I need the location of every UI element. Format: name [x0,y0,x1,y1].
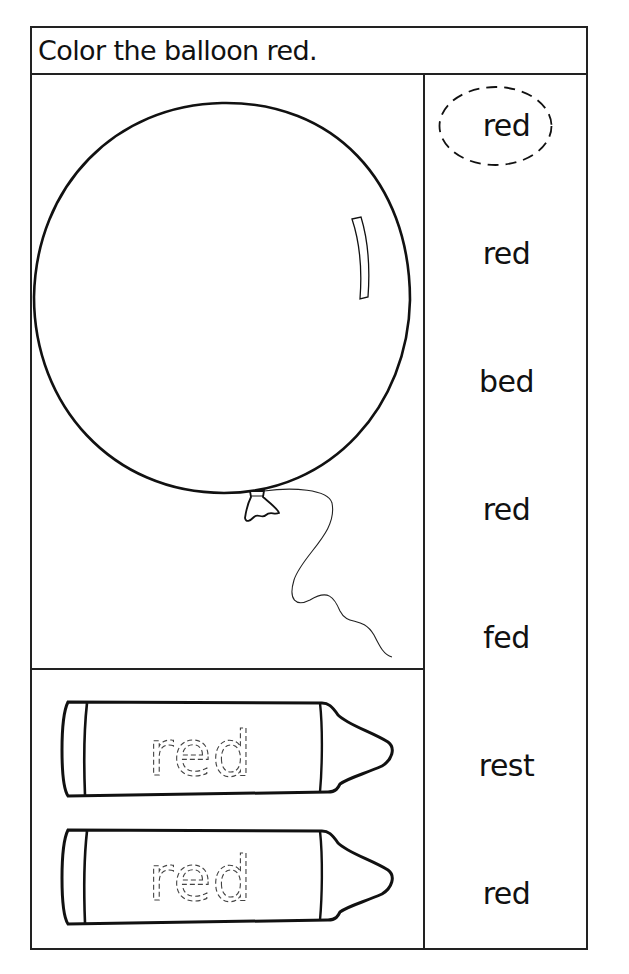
worksheet: Color the balloon red. red [30,26,588,950]
traced-word[interactable]: red [148,842,253,915]
crayon-collar-line [320,703,322,792]
crayon-1[interactable]: red [62,702,392,796]
crayon-2[interactable]: red [62,830,392,924]
word-choice-6[interactable]: rest [425,748,588,784]
instruction-header: Color the balloon red. [32,28,586,75]
balloon-string [264,489,392,657]
word-choice-4[interactable]: red [425,492,588,528]
balloon-outline [34,103,410,493]
balloon-knot [245,491,279,521]
crayon-collar-line [320,831,322,920]
word-choice-3[interactable]: bed [425,364,588,400]
balloon-highlight [352,217,369,299]
word-choice-5[interactable]: fed [425,620,588,656]
crayon-cap-line [84,831,87,923]
word-choice-column: red red bed red fed rest red [423,75,588,950]
word-choice-1[interactable]: red [425,108,588,144]
crayon-panel: red red [32,670,423,950]
word-choice-2[interactable]: red [425,236,588,272]
instruction-text: Color the balloon red. [38,35,317,67]
traced-word[interactable]: red [148,717,253,790]
word-choice-7[interactable]: red [425,876,588,912]
crayon-illustrations: red red [32,670,423,950]
crayon-cap-line [84,703,87,795]
balloon-illustration[interactable] [32,75,423,670]
balloon-picture-panel[interactable] [32,75,423,670]
